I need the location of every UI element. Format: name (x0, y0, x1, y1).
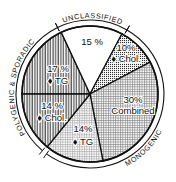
slice-sublabel: ♦ TG (73, 136, 94, 147)
pie-chart: 17 %♦ TG15 %10%♦ Chol.30%Combined14%♦ TG… (0, 0, 176, 182)
slice-sublabel: ♦ Chol. (111, 53, 141, 64)
slice-value: 17 % (47, 63, 69, 74)
group-bracket-tick (44, 151, 49, 158)
slice-sublabel: Combined (111, 105, 154, 116)
slice-value: 10% (116, 42, 136, 53)
slice-sublabel: ♦ TG (48, 75, 69, 86)
slice-value: 30% (123, 94, 143, 105)
slice-value: 14 % (41, 100, 63, 111)
slice-sublabel: ♦ Chol. (37, 112, 67, 123)
slice-value: 15 % (81, 36, 103, 47)
slice-value: 14% (73, 123, 93, 134)
